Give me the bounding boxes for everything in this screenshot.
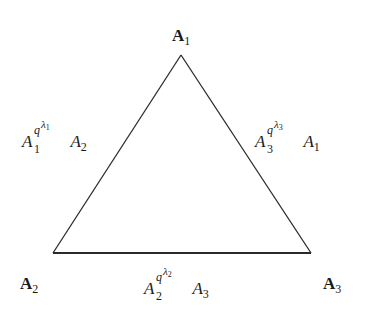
edge-a1-a2-tail: A2 [70,133,86,153]
edge-a2-a3-tail-subscript: 3 [203,287,209,301]
edge-a2-a3-tail-letter: A [192,279,202,298]
edge-a3-a1-base-subscript: 3 [267,143,273,155]
edge-line-a3-a1 [181,55,311,253]
edge-a2-a3-exp-lambda: λ2 [163,265,172,277]
edge-label-a1-a2: A 1 qλ1 A2 [22,133,87,153]
vertex-a2-subscript: 2 [32,282,38,296]
vertex-a1-letter: A [172,26,184,45]
edge-a3-a1-base-letter: A [255,132,265,151]
edge-a1-a2-exp-q: q [34,123,40,137]
edge-a3-a1-lambda-subscript: 3 [279,123,283,132]
vertex-a2-letter: A [20,274,32,293]
edge-a3-a1-exp-q: q [267,123,273,137]
vertex-label-a3: A3 [323,275,341,295]
edge-a2-a3-exp-q: q [156,270,162,284]
edge-a2-a3-lambda-subscript: 2 [168,270,172,279]
edge-a3-a1-tail-subscript: 1 [314,140,320,154]
edge-a3-a1-exponent: qλ3 [267,124,282,138]
edge-a1-a2-tail-subscript: 2 [81,140,87,154]
edge-label-a3-a1: A 3 qλ3 A1 [255,133,320,153]
edge-a2-a3-base-letter: A [144,279,154,298]
edge-a3-a1-tail: A1 [303,133,319,153]
edge-a1-a2-tail-letter: A [70,132,80,151]
edge-a2-a3-exponent: qλ2 [156,271,171,285]
edge-a1-a2-base-letter: A [22,132,32,151]
triangle-diagram: A1 A2 A3 A 1 qλ1 A2 A 3 qλ3 A1 A 2 qλ2 A… [0,0,366,317]
edge-line-a1-a2 [53,55,181,253]
edge-a1-a2-exponent: qλ1 [34,124,49,138]
edge-a2-a3-base-subscript: 2 [156,290,162,302]
vertex-a3-subscript: 3 [335,282,341,296]
triangle-shape [0,0,366,317]
vertex-a3-letter: A [323,274,335,293]
vertex-label-a2: A2 [20,275,38,295]
edge-a1-a2-lambda-subscript: 1 [46,123,50,132]
edge-a3-a1-base: A 3 qλ3 [255,133,265,150]
edge-a1-a2-base-subscript: 1 [34,143,40,155]
vertex-label-a1: A1 [172,27,190,47]
edge-a2-a3-tail: A3 [192,280,208,300]
edge-a3-a1-tail-letter: A [303,132,313,151]
edge-label-a2-a3: A 2 qλ2 A3 [144,280,209,300]
edge-a3-a1-exp-lambda: λ3 [274,118,283,130]
edge-a1-a2-base: A 1 qλ1 [22,133,32,150]
edge-a2-a3-base: A 2 qλ2 [144,280,154,297]
vertex-a1-subscript: 1 [184,34,190,48]
edge-a1-a2-exp-lambda: λ1 [41,118,50,130]
